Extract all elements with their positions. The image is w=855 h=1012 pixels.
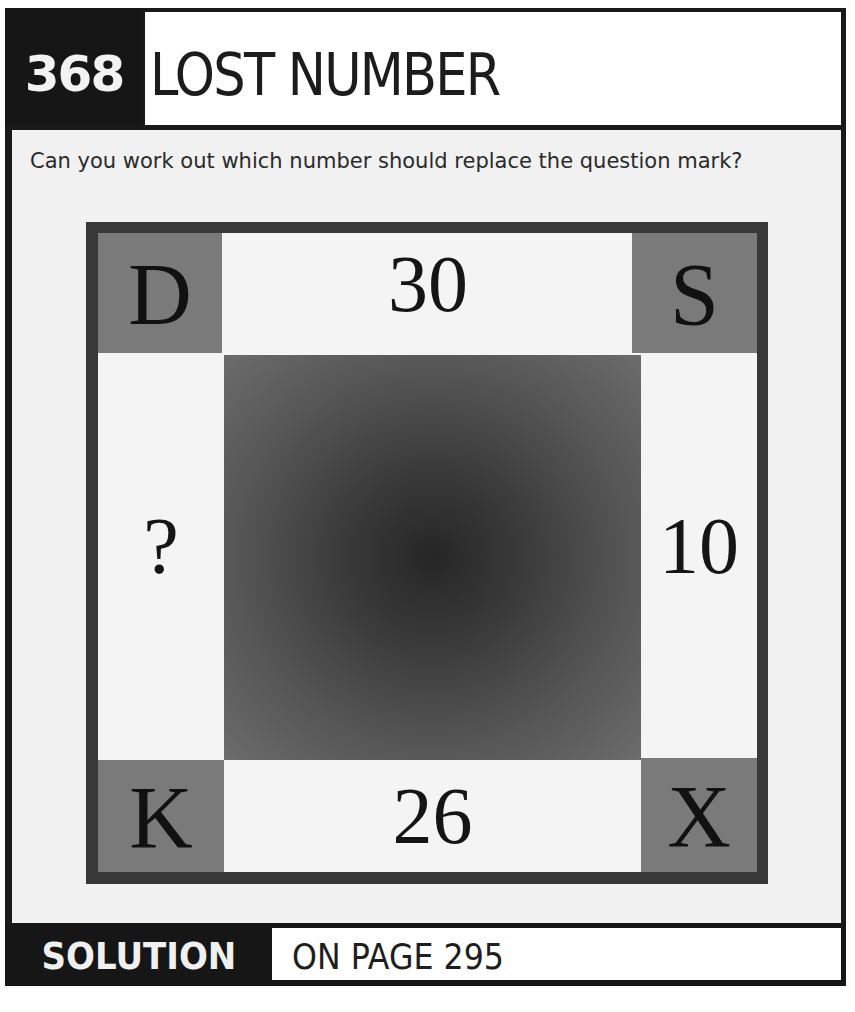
corner-bottom-right: X (641, 758, 757, 872)
corner-letter: K (129, 774, 193, 862)
corner-letter: X (667, 773, 731, 861)
corner-letter: D (128, 251, 192, 339)
puzzle-title: LOST NUMBER (150, 41, 500, 109)
center-square (224, 355, 641, 760)
question-text: Can you work out which number should rep… (30, 148, 742, 173)
title-box: LOST NUMBER (145, 12, 841, 125)
puzzle-number: 368 (25, 45, 123, 103)
edge-number-bottom: 26 (224, 776, 641, 856)
corner-letter: S (670, 251, 719, 339)
solution-page-text: ON PAGE 295 (292, 932, 504, 977)
edge-number-top: 30 (224, 244, 632, 324)
corner-top-right: S (632, 233, 757, 353)
edge-number-right: 10 (641, 506, 757, 586)
corner-bottom-left: K (98, 760, 224, 872)
solution-page-box: ON PAGE 295 (272, 928, 841, 980)
puzzle-number-badge: 368 (5, 8, 143, 126)
corner-top-left: D (98, 233, 222, 353)
edge-number-left-unknown: ? (98, 506, 224, 586)
solution-label-text: SOLUTION (41, 935, 236, 978)
solution-label: SOLUTION (5, 923, 272, 986)
